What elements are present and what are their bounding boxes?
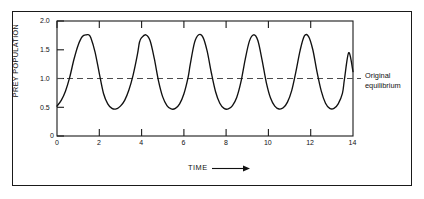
prey-population-chart (0, 0, 424, 199)
x-tick-label-0: 0 (55, 139, 59, 146)
y-tick-label-2_0: 2.0 (40, 17, 50, 24)
x-tick-label-14: 14 (349, 139, 357, 146)
prey-population-curve (57, 34, 353, 109)
x-axis-title: TIME (188, 163, 208, 172)
figure-container: 2.0 1.5 1.0 0.5 0 0 2 4 6 8 10 12 14 PRE… (0, 0, 424, 199)
equilibrium-annotation-line2: equilibrium (365, 81, 401, 91)
y-tick-label-0: 0 (50, 132, 54, 139)
y-tick-label-1_5: 1.5 (40, 46, 50, 53)
x-tick-label-6: 6 (182, 139, 186, 146)
y-axis-title: PREY POPULATION (11, 13, 20, 109)
x-tick-label-2: 2 (97, 139, 101, 146)
y-tick-label-0_5: 0.5 (40, 104, 50, 111)
x-tick-label-8: 8 (224, 139, 228, 146)
x-tick-label-12: 12 (306, 139, 314, 146)
x-tick-label-10: 10 (264, 139, 272, 146)
equilibrium-annotation: Original equilibrium (365, 71, 401, 90)
y-tick-label-1_0: 1.0 (40, 75, 50, 82)
x-tick-label-4: 4 (139, 139, 143, 146)
equilibrium-annotation-line1: Original (365, 71, 401, 81)
time-axis-arrow (212, 166, 250, 172)
